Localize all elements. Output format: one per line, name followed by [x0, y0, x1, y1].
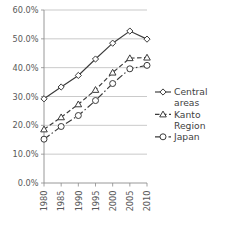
series-japan — [41, 62, 150, 142]
chart-container: 0.0%10.0%20.0%30.0%40.0%50.0%60.0%198019… — [0, 0, 232, 227]
circle-marker-icon — [127, 66, 133, 72]
circle-marker-icon — [41, 136, 47, 142]
x-axis-tick-label: 2010 — [142, 191, 152, 212]
y-axis-tick-label: 60.0% — [12, 5, 38, 15]
legend-label: Kanto — [174, 109, 201, 120]
legend-item-central-areas[interactable]: Centralareas — [155, 86, 207, 108]
circle-marker-icon — [110, 81, 116, 87]
x-axis-tick-label: 1985 — [56, 191, 66, 212]
legend-label: Central — [174, 86, 207, 97]
legend: CentralareasKantoRegionJapan — [155, 86, 207, 142]
circle-marker-icon — [160, 134, 166, 140]
legend-item-kanto-region[interactable]: KantoRegion — [155, 109, 206, 131]
diamond-marker-icon — [160, 89, 166, 95]
line-chart: 0.0%10.0%20.0%30.0%40.0%50.0%60.0%198019… — [0, 0, 232, 227]
x-axis-tick-label: 1990 — [74, 191, 84, 212]
x-axis-tick-label: 1995 — [91, 191, 101, 212]
circle-marker-icon — [144, 62, 150, 68]
legend-label: Japan — [173, 131, 200, 142]
triangle-marker-icon — [41, 126, 48, 132]
circle-marker-icon — [58, 123, 64, 129]
legend-label: areas — [174, 97, 199, 108]
y-axis-tick-label: 40.0% — [12, 63, 38, 73]
y-axis-tick-label: 50.0% — [12, 34, 38, 44]
y-axis-tick-label: 30.0% — [12, 92, 38, 102]
triangle-marker-icon — [92, 87, 99, 93]
circle-marker-icon — [93, 98, 99, 104]
circle-marker-icon — [75, 113, 81, 119]
legend-label: Region — [174, 120, 206, 131]
x-axis-tick-label: 1980 — [39, 191, 49, 212]
diamond-marker-icon — [144, 36, 150, 42]
legend-item-japan[interactable]: Japan — [155, 131, 200, 142]
y-axis-tick-label: 20.0% — [12, 120, 38, 130]
y-axis-tick-label: 0.0% — [18, 178, 39, 188]
series-kanto-region — [41, 54, 151, 132]
x-axis-tick-label: 2000 — [108, 191, 118, 212]
gridlines — [41, 10, 147, 183]
y-axis-tick-label: 10.0% — [12, 149, 38, 159]
x-axis-tick-label: 2005 — [125, 191, 135, 212]
